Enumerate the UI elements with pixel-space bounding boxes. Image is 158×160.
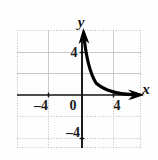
coordinate-plane-svg: y x –4 4 4 –4 0 [0,0,158,160]
y-axis-label: y [76,14,85,30]
y-tick-label-neg4: –4 [65,125,80,140]
origin-label: 0 [70,98,77,113]
y-tick-label-pos4: 4 [71,45,78,60]
x-axis-label: x [141,81,150,97]
x-tick-label-neg4: –4 [33,98,48,113]
graph-figure: y x –4 4 4 –4 0 [0,0,158,160]
x-tick-label-pos4: 4 [114,98,121,113]
